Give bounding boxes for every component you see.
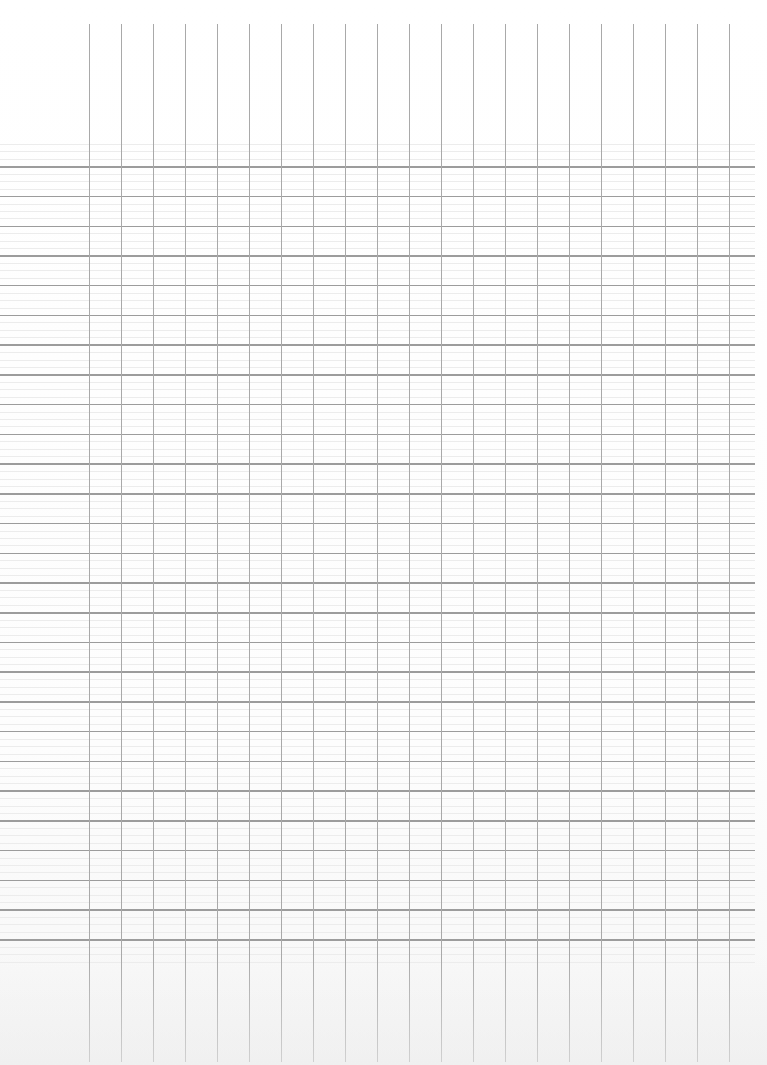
column-line: [633, 24, 634, 1062]
column-line: [505, 24, 506, 1062]
column-line: [249, 24, 250, 1062]
column-line: [409, 24, 410, 1062]
column-line: [601, 24, 602, 1062]
column-line: [185, 24, 186, 1062]
column-line: [377, 24, 378, 1062]
column-line: [89, 24, 90, 1062]
grid-sheet: [0, 0, 767, 1065]
column-line: [313, 24, 314, 1062]
column-line: [729, 24, 730, 1062]
column-line: [121, 24, 122, 1062]
column-line: [217, 24, 218, 1062]
column-line: [153, 24, 154, 1062]
column-line: [569, 24, 570, 1062]
column-line: [441, 24, 442, 1062]
column-line: [345, 24, 346, 1062]
column-line: [537, 24, 538, 1062]
column-line: [665, 24, 666, 1062]
column-line: [473, 24, 474, 1062]
column-line: [697, 24, 698, 1062]
column-line: [281, 24, 282, 1062]
paper-shading: [0, 955, 767, 1065]
